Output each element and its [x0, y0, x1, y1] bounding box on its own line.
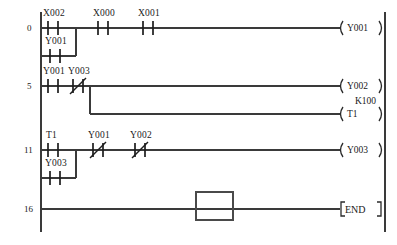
contact-y001-r11-label: Y001 — [88, 130, 110, 140]
instruction-end-label: END — [345, 204, 366, 215]
contact-t1-r11-label: T1 — [46, 130, 57, 140]
contact-y003-r5-label: Y003 — [68, 66, 90, 76]
rung-5: Y001 Y003 Y002 K100 T1 — [27, 66, 382, 121]
step-number-0: 0 — [27, 23, 32, 33]
ladder-diagram-canvas: X002 X000 X001 Y001 — [0, 0, 397, 245]
contact-y001-r5-label: Y001 — [43, 66, 65, 76]
step-number-5: 5 — [27, 81, 32, 91]
ladder-diagram-svg: X002 X000 X001 Y001 — [0, 0, 397, 245]
selection-cursor-box[interactable] — [196, 192, 233, 220]
contact-x001-label: X001 — [138, 8, 160, 18]
contact-y002-r11-label: Y002 — [130, 130, 152, 140]
coil-t1-label: T1 — [347, 109, 358, 119]
rung-0: X002 X000 X001 Y001 — [27, 8, 382, 63]
contact-y002-r11[interactable] — [132, 142, 148, 158]
step-number-16: 16 — [24, 204, 34, 214]
coil-y002-label: Y002 — [347, 81, 368, 91]
coil-y001-label: Y001 — [347, 23, 368, 33]
contact-y001-sealin-label: Y001 — [45, 36, 67, 46]
contact-x000-label: X000 — [93, 8, 115, 18]
coil-y003-label: Y003 — [347, 145, 368, 155]
contact-y003-sealin-label: Y003 — [45, 158, 67, 168]
timer-preset-k100: K100 — [355, 96, 376, 106]
contact-y001-r11[interactable] — [90, 142, 106, 158]
rung-11: T1 Y001 Y002 Y003 — [24, 130, 382, 185]
rung-16: END 16 — [24, 192, 381, 220]
contact-y003-r5[interactable] — [70, 78, 86, 94]
step-number-11: 11 — [24, 145, 33, 155]
contact-x002-label: X002 — [43, 8, 65, 18]
